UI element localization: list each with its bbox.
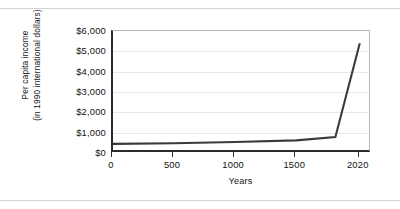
y-axis-tick-label: $3,000 xyxy=(52,86,106,97)
y-axis-tick-label: $2,000 xyxy=(52,106,106,117)
series-line-world-income xyxy=(113,43,360,144)
y-axis-tick-label: $6,000 xyxy=(52,25,106,36)
y-axis-tick-label: $5,000 xyxy=(52,45,106,56)
x-axis-tick-label: 1000 xyxy=(222,159,244,170)
y-axis-tick-labels: $0$1,000$2,000$3,000$4,000$5,000$6,000 xyxy=(52,0,106,209)
plot-area xyxy=(111,30,370,152)
x-axis-tick-label: 0 xyxy=(108,159,113,170)
data-line-svg xyxy=(113,31,372,153)
chart-figure: Per capita income (in 1990 international… xyxy=(0,0,400,209)
x-axis-tick-mark xyxy=(233,152,234,157)
x-axis-tick-label: 2020 xyxy=(347,159,369,170)
y-axis-title-line-2: (in 1990 international dollars) xyxy=(32,0,44,139)
x-axis-tick-mark xyxy=(294,152,295,157)
y-axis-title-line-1: Per capita income xyxy=(20,0,32,139)
x-axis-tick-mark xyxy=(111,152,112,157)
x-axis-tick-label: 500 xyxy=(164,159,180,170)
x-axis-tick-label: 1500 xyxy=(283,159,305,170)
y-axis-tick-label: $4,000 xyxy=(52,65,106,76)
x-axis-title: Years xyxy=(111,176,370,186)
y-axis-title: Per capita income (in 1990 international… xyxy=(20,0,54,139)
x-axis-tick-mark xyxy=(172,152,173,157)
y-axis-tick-label: $0 xyxy=(52,147,106,158)
y-axis-tick-label: $1,000 xyxy=(52,126,106,137)
x-axis-tick-mark xyxy=(358,152,359,157)
